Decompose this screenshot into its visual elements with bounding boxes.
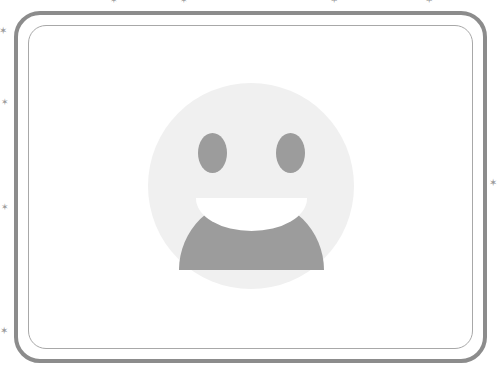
sparkle-left-3-icon: ✶ [1,203,9,212]
emoji-mouth [179,198,324,270]
emoji-container [18,15,483,359]
emoji-eye-right [276,133,305,173]
sparkle-top-3-icon: ✶ [330,0,338,5]
screenshot-canvas: ✶✶✶✶✶✶✶✶✶ [0,0,501,378]
sparkle-right-1-icon: ✶ [489,178,497,188]
sparkle-top-2-icon: ✶ [180,0,188,5]
sparkle-top-4-icon: ✶ [425,0,433,5]
emoji-card[interactable] [14,11,487,363]
sparkle-left-2-icon: ✶ [1,98,9,107]
grinning-face-emoji [148,83,354,289]
emoji-eye-left [198,133,227,173]
sparkle-top-1-icon: ✶ [110,0,118,5]
sparkle-left-1-icon: ✶ [0,26,7,36]
sparkle-left-4-icon: ✶ [0,326,8,336]
